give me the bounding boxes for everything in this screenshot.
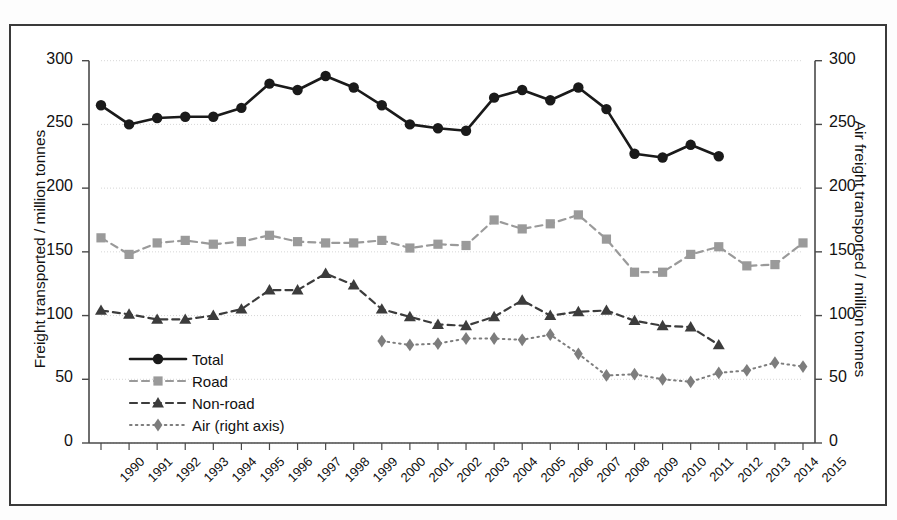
y-tick-label-right: 300 [829, 50, 879, 68]
legend-item: Total [128, 348, 285, 370]
y-tick-label-left: 300 [23, 50, 73, 68]
series-air-right-axis [377, 328, 807, 388]
y-tick-label-left: 50 [23, 368, 73, 386]
legend-key-dotted-diamond-gray [128, 415, 188, 435]
legend-key-solid-circle-black [128, 349, 188, 369]
y-tick-label-right: 150 [829, 241, 879, 259]
series-total [96, 71, 724, 163]
chart-figure: Freight transported / million tonnes Air… [0, 0, 897, 520]
y-tick-label-left: 250 [23, 113, 73, 131]
legend-label: Air (right axis) [192, 417, 285, 434]
chart-plot-area [0, 0, 897, 520]
y-tick-label-right: 250 [829, 113, 879, 131]
y-tick-label-left: 100 [23, 305, 73, 323]
y-tick-label-right: 200 [829, 177, 879, 195]
series-road [96, 210, 807, 277]
chart-legend: TotalRoadNon-roadAir (right axis) [128, 348, 285, 436]
legend-label: Road [192, 373, 228, 390]
legend-label: Total [192, 351, 224, 368]
y-tick-label-right: 50 [829, 368, 879, 386]
legend-key-dashed-triangle-dark [128, 393, 188, 413]
y-tick-label-right: 0 [829, 432, 879, 450]
legend-item: Non-road [128, 392, 285, 414]
legend-item: Air (right axis) [128, 414, 285, 436]
y-tick-label-right: 100 [829, 305, 879, 323]
y-tick-label-left: 200 [23, 177, 73, 195]
series-non-road [95, 268, 725, 350]
legend-key-dashed-square-gray [128, 371, 188, 391]
y-tick-label-left: 150 [23, 241, 73, 259]
y-tick-label-left: 0 [23, 432, 73, 450]
legend-item: Road [128, 370, 285, 392]
legend-label: Non-road [192, 395, 255, 412]
